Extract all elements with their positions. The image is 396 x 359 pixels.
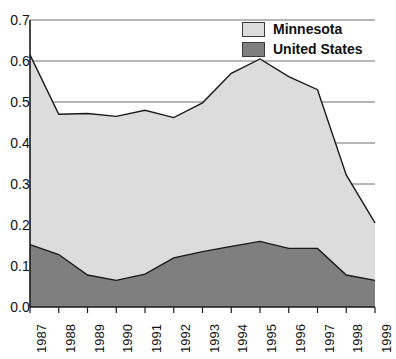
x-axis-tick-label-1994: 1994 (236, 324, 249, 353)
legend-entry-minnesota[interactable]: Minnesota (242, 21, 374, 38)
x-axis-tick-label-1995: 1995 (265, 324, 278, 353)
x-axis-tick-label-1999: 1999 (380, 324, 393, 353)
x-axis-tick-label-1998: 1998 (351, 324, 364, 353)
legend-swatch-united-states (242, 42, 265, 57)
x-axis-tick-label-1989: 1989 (93, 324, 106, 353)
legend-swatch-minnesota (242, 22, 265, 37)
x-axis-tick-label-1992: 1992 (179, 324, 192, 353)
x-axis-tick-label-1988: 1988 (64, 324, 77, 353)
x-axis-tick-marks (30, 307, 375, 313)
legend-entry-united-states[interactable]: United States (242, 41, 374, 58)
x-axis-tick-label-1996: 1996 (294, 324, 307, 353)
legend-label-minnesota: Minnesota (273, 22, 342, 37)
series-layer (30, 55, 375, 307)
x-axis-tick-label-1990: 1990 (121, 324, 134, 353)
area-chart: 0.7 0.6 0.5 0.4 0.3 0.2 0.1 0.0 (0, 0, 396, 359)
x-axis-tick-label-1993: 1993 (208, 324, 221, 353)
legend-label-united-states: United States (273, 42, 362, 57)
x-axis-tick-label-1987: 1987 (35, 324, 48, 353)
x-axis-tick-label-1991: 1991 (150, 324, 163, 353)
x-axis-tick-label-1997: 1997 (323, 324, 336, 353)
chart-legend: Minnesota United States (242, 19, 374, 58)
